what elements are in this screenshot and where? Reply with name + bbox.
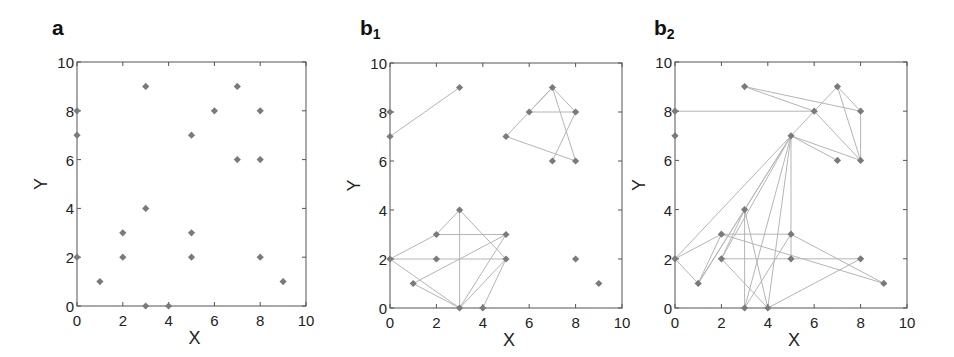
edge-line	[768, 259, 861, 308]
edges	[675, 87, 884, 308]
x-tick-label: 4	[764, 314, 772, 331]
edge-line	[745, 234, 791, 308]
diamond-marker	[787, 231, 794, 238]
x-tick-label: 10	[899, 314, 916, 331]
edge-line	[791, 136, 837, 161]
diamond-marker	[741, 304, 748, 311]
edge-line	[837, 87, 860, 161]
y-tick-label: 4	[664, 202, 672, 219]
diamond-marker	[880, 280, 887, 287]
edge-line	[814, 111, 860, 160]
edge-line	[675, 259, 698, 284]
x-tick-label: 6	[810, 314, 818, 331]
edge-line	[675, 234, 721, 259]
y-tick-label: 8	[664, 103, 672, 120]
panel-b2-graph: b2 02468100246810XY	[0, 0, 954, 357]
edge-line	[791, 136, 861, 161]
diamond-marker	[718, 231, 725, 238]
diamond-marker	[671, 108, 678, 115]
diamond-marker	[671, 132, 678, 139]
diamond-marker	[741, 83, 748, 90]
y-tick-label: 10	[655, 54, 672, 71]
edge-line	[745, 136, 791, 308]
panel-b2-plot: 02468100246810XY	[0, 0, 954, 357]
edge-line	[745, 136, 791, 210]
diamond-marker	[834, 157, 841, 164]
y-tick-label: 6	[664, 152, 672, 169]
diamond-marker	[741, 206, 748, 213]
y-tick-label: 0	[664, 300, 672, 317]
x-tick-label: 8	[856, 314, 864, 331]
x-tick-label: 0	[671, 314, 679, 331]
edge-line	[768, 136, 791, 308]
y-axis-title: Y	[629, 179, 649, 191]
edge-line	[721, 136, 791, 259]
edge-line	[675, 136, 791, 259]
x-axis-title: X	[788, 330, 800, 350]
data-points	[671, 83, 887, 312]
edge-line	[698, 210, 744, 284]
y-tick-label: 2	[664, 251, 672, 268]
diamond-marker	[857, 255, 864, 262]
x-tick-label: 2	[717, 314, 725, 331]
